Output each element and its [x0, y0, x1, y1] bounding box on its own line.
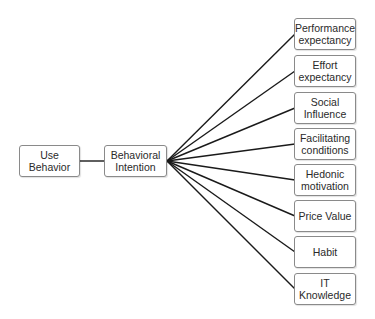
node-label: Hedonic motivation — [301, 168, 349, 192]
node-label: Facilitating conditions — [300, 132, 350, 156]
node-habit: Habit — [294, 236, 356, 268]
node-social-influence: Social Influence — [294, 92, 356, 124]
node-price-value: Price Value — [294, 200, 356, 232]
node-label: Effort expectancy — [298, 59, 351, 83]
node-use-behavior: Use Behavior — [19, 145, 80, 177]
node-effort-expectancy: Effort expectancy — [294, 55, 356, 87]
node-label: Use Behavior — [29, 149, 70, 173]
node-label: Habit — [313, 246, 338, 258]
node-label: Price Value — [299, 210, 352, 222]
node-label: Performance expectancy — [295, 22, 355, 46]
node-label: Social Influence — [304, 96, 347, 120]
node-performance-expectancy: Performance expectancy — [294, 18, 356, 50]
node-label: Behavioral Intention — [111, 149, 161, 173]
node-behavioral-intention: Behavioral Intention — [104, 145, 167, 177]
node-hedonic-motivation: Hedonic motivation — [294, 164, 356, 196]
node-label: IT Knowledge — [299, 277, 351, 301]
node-it-knowledge: IT Knowledge — [294, 273, 356, 305]
node-facilitating-conditions: Facilitating conditions — [294, 128, 356, 160]
